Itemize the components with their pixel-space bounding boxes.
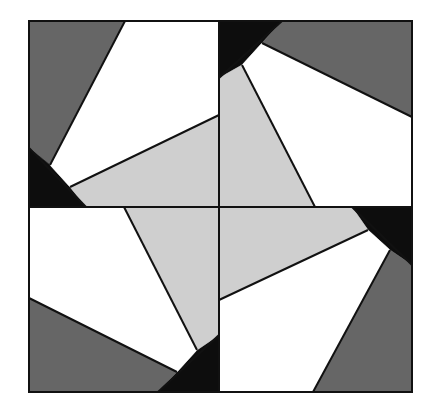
pinwheel-diagram [0, 0, 433, 416]
